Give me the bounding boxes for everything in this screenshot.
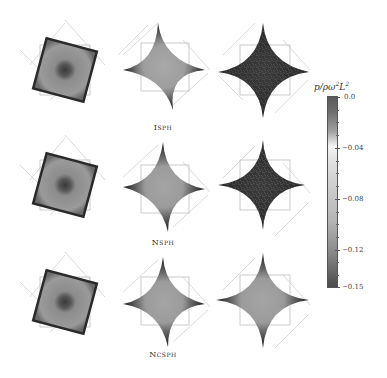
colorbar-minor-tick	[336, 135, 339, 136]
star-plot	[118, 137, 213, 237]
colorbar-minor-tick	[336, 237, 339, 238]
colorbar-tick-label: −0.12	[342, 246, 363, 254]
panel-row1-col2-star	[118, 15, 213, 115]
panel-row3-col1-square	[10, 247, 120, 357]
panel-row3-col2-star	[118, 252, 213, 352]
colorbar-tick-label: 0.0	[344, 93, 355, 101]
row-label-isph: Isph	[123, 123, 203, 132]
colorbar-minor-tick	[336, 173, 339, 174]
colorbar-tick	[335, 287, 340, 288]
star-plot	[213, 15, 313, 123]
colorbar-tick-label: −0.04	[342, 144, 363, 152]
panel-row2-col1-square	[10, 130, 120, 240]
colorbar-minor-tick	[336, 212, 339, 213]
colorbar-minor-tick	[336, 122, 339, 123]
rotated-square-plot	[10, 130, 120, 240]
colorbar-tick	[335, 97, 340, 98]
star-plot	[213, 250, 313, 358]
colorbar-tick	[335, 148, 340, 149]
colorbar-minor-tick	[336, 262, 339, 263]
row-label-ncsph: Ncsph	[123, 350, 203, 359]
star-plot	[213, 138, 313, 246]
colorbar-tick-label: −0.15	[342, 283, 363, 291]
colorbar-minor-tick	[336, 275, 339, 276]
colorbar-minor-tick	[336, 186, 339, 187]
rotated-square-plot	[10, 247, 120, 357]
colorbar-minor-tick	[336, 161, 339, 162]
star-plot	[118, 252, 213, 352]
panel-row1-col3-star	[213, 15, 313, 123]
panel-row2-col2-star	[118, 137, 213, 237]
colorbar-minor-tick	[336, 224, 339, 225]
colorbar-tick-label: −0.08	[342, 195, 363, 203]
colorbar	[327, 96, 338, 288]
colorbar-tick	[335, 250, 340, 251]
star-plot	[118, 15, 213, 115]
rotated-square-plot	[10, 15, 120, 125]
colorbar-title: p/ρω2L2	[314, 80, 349, 92]
panel-row2-col3-star	[213, 138, 313, 246]
colorbar-minor-tick	[336, 110, 339, 111]
row-label-nsph: Nsph	[123, 238, 203, 247]
colorbar-tick	[335, 199, 340, 200]
panel-row3-col3-star	[213, 250, 313, 358]
panel-row1-col1-square	[10, 15, 120, 125]
